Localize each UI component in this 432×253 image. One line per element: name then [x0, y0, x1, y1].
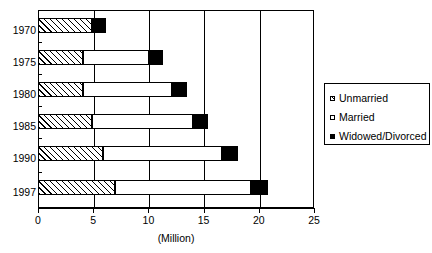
bar-segment-unmarried — [38, 146, 103, 161]
bar-segment-unmarried — [38, 50, 83, 65]
bar-segment-married — [115, 180, 251, 195]
stacked-bar-chart: 1970 1975 1980 1985 1990 1997 — [0, 0, 432, 253]
legend-swatch-unmarried-icon — [330, 96, 335, 101]
bar-segment-married — [83, 50, 149, 65]
ytick-label-1997: 1997 — [0, 187, 36, 198]
legend-item-widowed-divorced: Widowed/Divorced — [330, 130, 427, 142]
bar-segment-married — [92, 114, 192, 129]
x-tick-label-10: 10 — [143, 214, 155, 226]
ytick-label-1990: 1990 — [0, 153, 36, 164]
legend-label-married: Married — [339, 111, 375, 123]
x-tick-label-20: 20 — [253, 214, 265, 226]
y-minor-tick-5 — [38, 172, 42, 173]
gridline-10 — [149, 11, 150, 207]
x-tick-5 — [93, 208, 94, 213]
x-tick-15 — [204, 208, 205, 213]
x-axis-title: (Million) — [38, 232, 314, 244]
x-tick-10 — [148, 208, 149, 213]
ytick-label-1985: 1985 — [0, 121, 36, 132]
legend-item-unmarried: Unmarried — [330, 92, 388, 104]
ytick-label-1970: 1970 — [0, 25, 36, 36]
x-tick-20 — [259, 208, 260, 213]
bar-segment-married — [103, 146, 222, 161]
bar-segment-widowed — [172, 82, 187, 97]
bar-segment-widowed — [222, 146, 237, 161]
y-minor-tick-2 — [38, 74, 42, 75]
ytick-label-1975: 1975 — [0, 57, 36, 68]
x-tick-label-0: 0 — [35, 214, 41, 226]
gridline-20 — [260, 11, 261, 207]
legend-label-unmarried: Unmarried — [339, 92, 388, 104]
y-minor-tick-1 — [38, 42, 42, 43]
y-minor-tick-4 — [38, 138, 42, 139]
ytick-label-1980: 1980 — [0, 89, 36, 100]
legend-label-widowed-divorced: Widowed/Divorced — [339, 130, 427, 142]
gridline-15 — [204, 11, 205, 207]
bar-segment-widowed — [150, 50, 163, 65]
legend-item-married: Married — [330, 111, 375, 123]
x-tick-label-5: 5 — [90, 214, 96, 226]
bar-segment-widowed — [92, 18, 106, 33]
bar-segment-widowed — [251, 180, 268, 195]
bar-segment-unmarried — [38, 114, 92, 129]
x-tick-25 — [314, 208, 315, 213]
bar-segment-unmarried — [38, 82, 83, 97]
bar-segment-widowed — [193, 114, 208, 129]
legend: Unmarried Married Widowed/Divorced — [324, 83, 430, 145]
x-axis-line — [38, 208, 314, 209]
bar-segment-unmarried — [38, 18, 92, 33]
plot-area — [38, 10, 314, 208]
legend-swatch-married-icon — [330, 115, 335, 120]
y-axis-labels: 1970 1975 1980 1985 1990 1997 — [0, 10, 36, 208]
y-minor-tick-3 — [38, 106, 42, 107]
legend-swatch-widowed-icon — [330, 134, 335, 139]
x-tick-label-25: 25 — [308, 214, 320, 226]
gridline-5 — [94, 11, 95, 207]
x-tick-label-15: 15 — [198, 214, 210, 226]
bar-segment-married — [83, 82, 171, 97]
bar-segment-unmarried — [38, 180, 115, 195]
x-tick-0 — [38, 208, 39, 213]
